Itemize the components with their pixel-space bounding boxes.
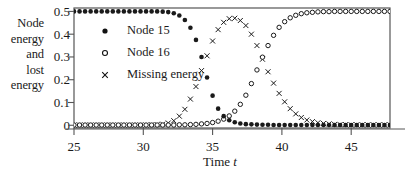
data-point [238,121,243,126]
data-point [88,9,93,14]
data-point [338,123,343,128]
data-point [105,123,109,127]
data-point [360,9,364,13]
data-point [111,123,115,127]
data-point [149,9,154,14]
data-point [210,120,214,124]
data-point [249,32,254,37]
data-point [100,123,104,127]
data-point [266,123,271,128]
data-point [321,9,325,13]
data-point [199,122,203,126]
legend-label-missing-energy: Missing energy [127,67,204,81]
cross-icon [96,68,114,82]
data-point [111,9,116,14]
data-point [382,123,387,128]
data-point [94,9,99,14]
data-point [338,9,342,13]
data-point [277,91,282,96]
data-point [294,13,298,17]
data-point [293,123,298,128]
data-point [227,16,232,21]
data-point [277,25,281,29]
data-point [388,9,392,13]
data-point [210,93,215,98]
data-point [282,19,286,23]
data-point [332,9,336,13]
data-point [227,118,232,123]
data-point [233,109,237,113]
data-point [188,97,193,102]
data-point [327,9,331,13]
data-point [155,123,159,127]
data-point [182,107,187,112]
data-point [161,123,165,127]
data-point [305,123,310,128]
data-point [321,123,326,128]
data-point [127,9,132,14]
data-point [122,9,127,14]
data-point [138,123,142,127]
data-point [255,68,259,72]
data-point [127,123,131,127]
data-point [177,123,181,127]
data-point [155,9,160,14]
data-point [282,123,287,128]
data-point [277,123,282,128]
legend-item-node-15: Node 15 [96,24,226,46]
data-point [122,123,126,127]
data-point [144,9,149,14]
data-point [183,123,187,127]
data-point [166,123,170,127]
data-point [354,123,359,128]
data-point [99,9,104,14]
data-point [266,43,270,47]
data-point [366,123,371,128]
data-point [244,122,249,127]
data-point [188,122,192,126]
data-point [327,123,332,128]
data-point [260,55,264,59]
data-point [305,11,309,15]
data-point [260,123,265,128]
data-point [349,123,354,128]
legend-label-node-15: Node 15 [127,23,170,37]
data-point [254,43,259,48]
data-point [316,10,320,14]
data-point [288,16,292,20]
data-point [172,123,176,127]
data-point [133,9,138,14]
data-point [216,106,221,111]
data-point [255,122,260,127]
data-point [177,114,182,119]
data-point [183,18,188,23]
chart-legend: Node 15 Node 16 Missing energy [96,24,226,90]
data-point [382,9,386,13]
data-point [249,81,253,85]
data-point [282,99,287,104]
data-point [310,10,314,14]
data-point [133,123,137,127]
data-point [299,11,303,15]
chart-figure: Node energy and lost energy 00.10.20.30.… [0,0,405,174]
data-point [271,33,275,37]
data-point [316,123,321,128]
data-point [299,115,304,120]
data-point [94,123,98,127]
legend-label-node-16: Node 16 [127,45,170,59]
data-point [371,9,375,13]
data-point [77,123,81,127]
data-point [105,9,110,14]
data-point [299,123,304,128]
data-point [349,9,353,13]
data-point [221,114,226,119]
data-point [343,123,348,128]
data-point [83,123,87,127]
data-point [310,123,315,128]
data-point [343,9,347,13]
data-point [304,118,309,123]
data-point [388,123,393,128]
data-point [377,123,382,128]
data-point [116,123,120,127]
data-point [355,9,359,13]
